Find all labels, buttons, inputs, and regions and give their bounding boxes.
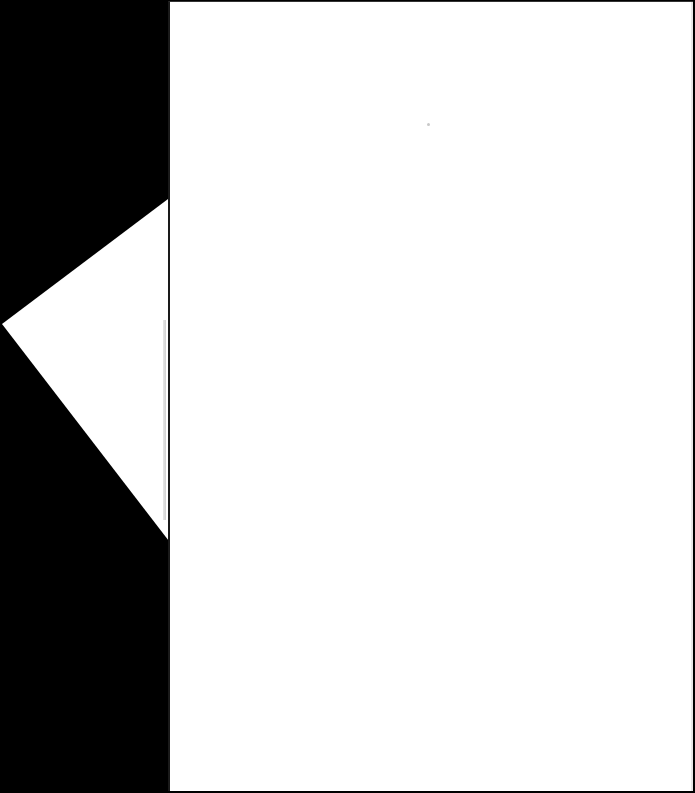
paper-shadow-edge [163,320,166,520]
paper-right-edge [691,2,693,791]
paper-speck [427,123,430,126]
front-paper-sheet [168,1,693,791]
